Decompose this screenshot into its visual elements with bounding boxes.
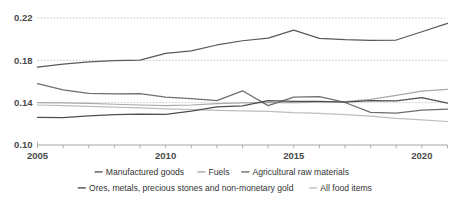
series-line [38, 89, 448, 105]
x-axis-tick-labels: 2005201020152020 [27, 150, 433, 161]
series-lines-group [38, 23, 448, 121]
legend-item-label[interactable]: All food items [320, 183, 372, 193]
legend-item-label[interactable]: Ores, metals, precious stones and non-mo… [89, 183, 294, 193]
chart-canvas: 0.100.140.180.22 2005201020152020 Manufa… [0, 0, 453, 207]
legend-item-label[interactable]: Manufactured goods [106, 167, 184, 177]
x-tick-label: 2010 [155, 150, 176, 161]
y-tick-label: 0.10 [14, 139, 33, 150]
series-line [38, 84, 448, 113]
x-tick-label: 2015 [283, 150, 305, 161]
y-tick-label: 0.18 [14, 55, 33, 66]
y-axis-tick-labels: 0.100.140.180.22 [14, 12, 33, 150]
x-tick-label: 2020 [411, 150, 432, 161]
legend-item-label[interactable]: Agricultural raw materials [252, 167, 348, 177]
x-axis [38, 142, 448, 148]
x-tick-label: 2005 [27, 150, 49, 161]
gridlines-group [38, 18, 448, 103]
line-chart: 0.100.140.180.22 2005201020152020 Manufa… [0, 0, 453, 207]
chart-legend: Manufactured goodsFuelsAgricultural raw … [78, 167, 372, 193]
y-tick-label: 0.22 [14, 12, 33, 23]
legend-item-label[interactable]: Fuels [209, 167, 230, 177]
y-tick-label: 0.14 [14, 97, 33, 108]
series-line [38, 98, 448, 118]
